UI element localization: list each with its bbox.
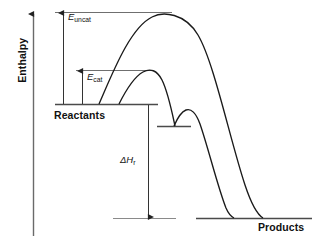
catalyzed-curve-step-1 — [119, 70, 175, 126]
y-axis-label: Enthalpy — [17, 25, 28, 95]
e-uncat-subscript: uncat — [74, 16, 91, 23]
uncatalyzed-curve — [99, 14, 263, 218]
e-uncat-label: Euncat — [68, 12, 91, 22]
delta-h-symbol: ΔH — [120, 154, 133, 165]
reactants-label: Reactants — [54, 110, 105, 121]
energy-profile-diagram — [0, 0, 321, 241]
delta-h-subscript: r — [133, 159, 135, 166]
reaction-curves — [99, 14, 263, 218]
e-cat-subscript: cat — [93, 76, 102, 83]
energy-levels — [55, 105, 312, 219]
delta-h-label: ΔHr — [120, 155, 136, 165]
e-cat-label: Ecat — [87, 72, 102, 82]
products-label: Products — [258, 222, 304, 233]
